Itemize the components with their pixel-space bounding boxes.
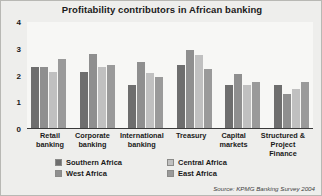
- bar: [49, 72, 57, 130]
- bar: [225, 85, 233, 129]
- legend-swatch-icon: [55, 170, 62, 177]
- x-axis-category-label: Corporate banking: [73, 131, 111, 153]
- source-note: Source: KPMG Banking Survey 2004: [213, 185, 315, 192]
- legend-label: West Africa: [66, 169, 107, 178]
- x-axis-category-label: International banking: [116, 131, 168, 153]
- y-axis-tick-label: 3: [17, 44, 21, 53]
- y-axis-tick-label: 1: [17, 98, 21, 107]
- legend-label: East Africa: [178, 169, 217, 178]
- legend-label: Southern Africa: [66, 158, 122, 167]
- bar: [128, 85, 136, 129]
- legend-item[interactable]: Southern Africa: [55, 158, 167, 167]
- x-axis-category-label: Treasury: [172, 131, 210, 153]
- bar: [301, 82, 309, 129]
- bar: [292, 89, 300, 129]
- x-axis-line: [27, 128, 313, 129]
- legend-label: Central Africa: [178, 158, 227, 167]
- plot-area: [27, 22, 313, 129]
- bar: [155, 77, 163, 129]
- bar: [177, 65, 185, 129]
- legend-swatch-icon: [167, 170, 174, 177]
- chart-title: Profitability contributors in African ba…: [1, 4, 322, 15]
- y-axis-tick-label: 0: [17, 125, 21, 134]
- x-axis-category-label: Capital markets: [215, 131, 253, 153]
- legend-swatch-icon: [167, 159, 174, 166]
- bar: [186, 50, 194, 129]
- bar: [31, 67, 39, 129]
- y-axis-tick-label: 2: [17, 71, 21, 80]
- bar: [58, 59, 66, 129]
- bar: [274, 85, 282, 129]
- legend-swatch-icon: [55, 159, 62, 166]
- bar: [204, 69, 212, 129]
- x-axis-category-label: Retail banking: [31, 131, 69, 153]
- y-axis-tick-labels: 01234: [1, 22, 25, 129]
- bar: [80, 72, 88, 130]
- x-axis-category-labels: Retail bankingCorporate bankingInternati…: [27, 131, 313, 153]
- bar: [98, 67, 106, 129]
- bar: [107, 65, 115, 129]
- bar-group: [31, 22, 66, 129]
- bar: [243, 85, 251, 129]
- bar: [146, 73, 154, 129]
- bar: [89, 54, 97, 129]
- legend-item[interactable]: Central Africa: [167, 158, 269, 167]
- bar-group: [274, 22, 309, 129]
- bar: [234, 74, 242, 129]
- bar-group: [80, 22, 115, 129]
- chart-figure: Profitability contributors in African ba…: [0, 0, 322, 196]
- bar-groups: [27, 22, 313, 129]
- bar: [40, 67, 48, 129]
- legend-item[interactable]: East Africa: [167, 169, 269, 178]
- bar-group: [128, 22, 163, 129]
- bar: [283, 94, 291, 129]
- legend-item[interactable]: West Africa: [55, 169, 167, 178]
- y-axis-tick-label: 4: [17, 18, 21, 27]
- bar: [195, 55, 203, 129]
- x-axis-category-label: Structured & Project Finance: [257, 131, 309, 153]
- chart-legend: Southern AfricaCentral AfricaWest Africa…: [55, 157, 269, 179]
- bar-group: [177, 22, 212, 129]
- bar: [137, 62, 145, 129]
- bar-group: [225, 22, 260, 129]
- bar: [252, 82, 260, 129]
